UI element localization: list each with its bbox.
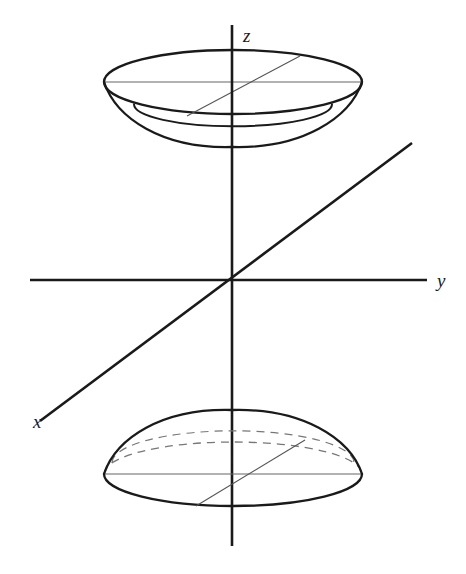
x-axis-label: x	[32, 411, 42, 432]
upper-x-trace-line	[187, 56, 300, 116]
z-axis-label: z	[242, 25, 251, 46]
hyperboloid-diagram: z y x	[0, 0, 466, 574]
y-axis-label: y	[435, 270, 446, 291]
lower-x-trace-line	[196, 440, 305, 506]
figure-container: z y x	[0, 0, 466, 574]
x-axis-line	[40, 143, 412, 421]
axes-group	[30, 25, 427, 546]
